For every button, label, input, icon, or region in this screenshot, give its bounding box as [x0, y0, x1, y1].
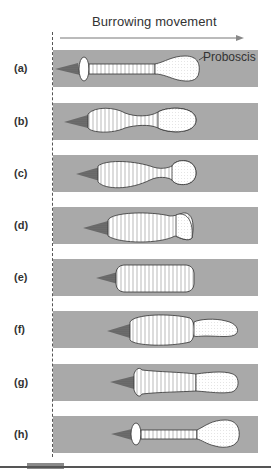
worm-g [110, 368, 238, 396]
worm-e [96, 265, 194, 292]
worm-f [107, 315, 238, 345]
bottom-divider [0, 466, 271, 468]
worm-c [76, 161, 196, 188]
worm-b [64, 108, 196, 132]
worm-illustrations [0, 0, 271, 470]
worm-d [83, 213, 193, 242]
worm-h [111, 420, 239, 447]
worm-a [55, 56, 205, 81]
